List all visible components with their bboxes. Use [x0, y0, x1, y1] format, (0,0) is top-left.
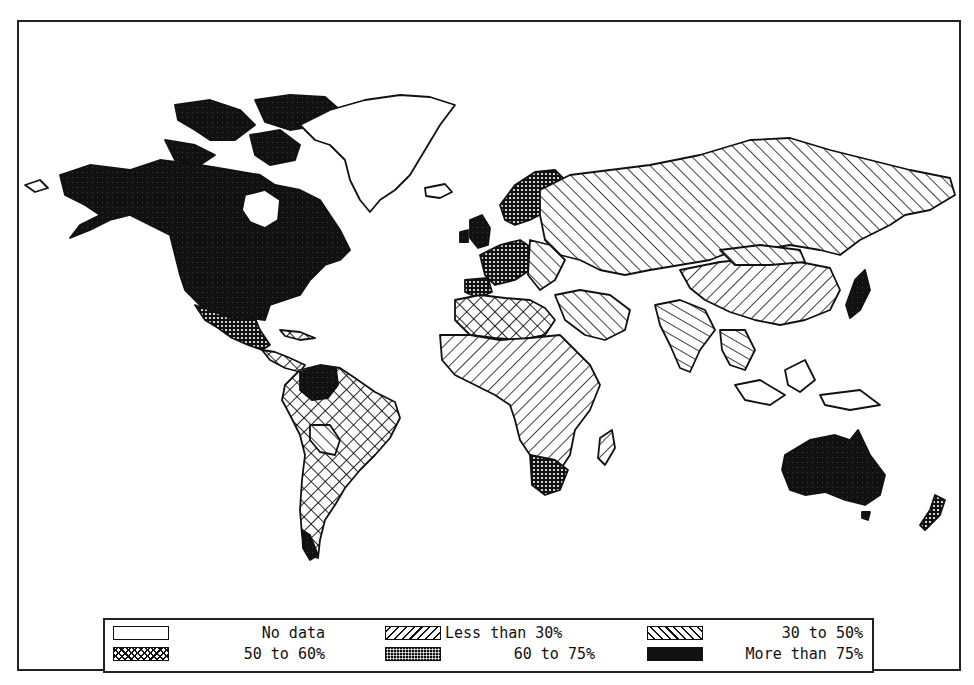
legend-swatch-30-50: [647, 626, 703, 640]
legend-label-50-60: 50 to 60%: [205, 646, 325, 662]
legend-label-30-50: 30 to 50%: [705, 625, 863, 641]
legend-label-lt30: Less than 30%: [445, 625, 595, 641]
legend-swatch-gt75: [647, 647, 703, 661]
region-south-america: [282, 365, 400, 558]
world-map: [0, 0, 974, 685]
region-africa: [440, 335, 600, 470]
region-north-america: [60, 160, 350, 320]
legend-swatch-no-data: [113, 626, 169, 640]
legend-swatch-60-75: [385, 647, 441, 661]
legend-label-60-75: 60 to 75%: [455, 646, 595, 662]
region-uk: [470, 215, 490, 248]
legend-swatch-lt30: [385, 626, 441, 640]
legend-swatch-50-60: [113, 647, 169, 661]
region-australia: [782, 430, 885, 505]
legend-label-no-data: No data: [225, 625, 325, 641]
region-north-africa: [455, 295, 555, 340]
region-japan: [846, 270, 870, 318]
legend: No data Less than 30% 30 to 50% 50 to 60…: [103, 618, 874, 673]
legend-label-gt75: More than 75%: [705, 646, 863, 662]
region-india: [655, 300, 715, 372]
